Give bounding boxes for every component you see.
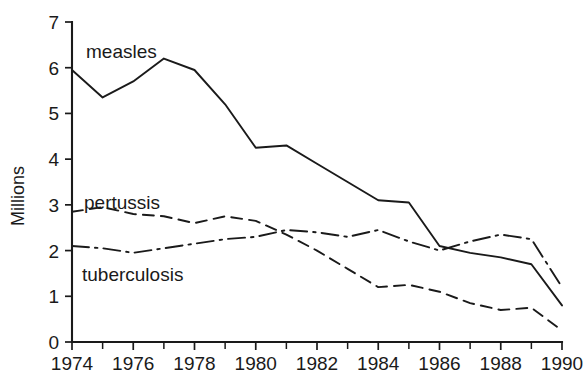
- x-tick-label: 1980: [235, 353, 277, 374]
- x-tick-label: 1984: [357, 353, 400, 374]
- y-tick-label: 0: [48, 332, 59, 353]
- line-chart: 01234567 1974197619781980198219841986198…: [0, 0, 586, 376]
- y-tick-label: 2: [48, 241, 59, 262]
- x-tick-label: 1988: [480, 353, 522, 374]
- x-tick-label: 1974: [51, 353, 94, 374]
- y-axis-title: Millions: [8, 166, 28, 226]
- x-tick-label: 1986: [418, 353, 460, 374]
- y-tick-label: 4: [48, 149, 59, 170]
- y-tick-label: 5: [48, 103, 59, 124]
- x-axis-ticks: 197419761978198019821984198619881990: [51, 342, 583, 374]
- series-label-measles: measles: [86, 41, 157, 62]
- y-tick-label: 1: [48, 286, 59, 307]
- y-tick-label: 7: [48, 12, 59, 33]
- x-tick-label: 1976: [112, 353, 154, 374]
- chart-container: 01234567 1974197619781980198219841986198…: [0, 0, 586, 376]
- x-tick-label: 1982: [296, 353, 338, 374]
- series-label-tuberculosis: tuberculosis: [82, 264, 183, 285]
- x-tick-label: 1990: [541, 353, 583, 374]
- series-label-pertussis: pertussis: [84, 192, 160, 213]
- chart-axes: [72, 22, 562, 342]
- y-tick-label: 3: [48, 195, 59, 216]
- x-tick-label: 1978: [173, 353, 215, 374]
- y-axis-ticks: 01234567: [48, 12, 72, 353]
- y-tick-label: 6: [48, 58, 59, 79]
